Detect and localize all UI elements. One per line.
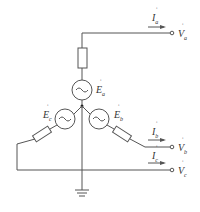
resistor-b xyxy=(113,126,132,142)
wire-c xyxy=(17,139,170,170)
ground-icon xyxy=(75,190,89,196)
accent-Vb: ˙ xyxy=(181,138,185,145)
label-Vc: Vc xyxy=(178,166,187,180)
terminal-b xyxy=(170,145,174,149)
label-Ec: Ec xyxy=(43,110,52,124)
terminal-c xyxy=(170,168,174,172)
label-Ic: Ic xyxy=(152,151,158,165)
accent-Ia: ˙ xyxy=(155,8,159,15)
label-Eb: Eb xyxy=(114,110,123,124)
accent-Ib: ˙ xyxy=(155,122,159,129)
circuit-diagram xyxy=(0,0,200,212)
accent-Ea: ˙ xyxy=(99,80,103,87)
label-Vb: Vb xyxy=(178,143,187,157)
accent-Vc: ˙ xyxy=(181,161,185,168)
label-Ea: Ea xyxy=(96,85,105,99)
label-Ib: Ib xyxy=(152,127,158,141)
accent-Va: ˙ xyxy=(181,24,185,31)
terminal-a xyxy=(170,31,174,35)
label-Ia: Ia xyxy=(152,13,158,27)
resistor-a xyxy=(78,48,87,68)
accent-Ic: ˙ xyxy=(155,146,159,153)
accent-Ec: ˙ xyxy=(46,105,50,112)
resistor-c xyxy=(33,126,52,142)
label-Va: Va xyxy=(178,29,187,43)
accent-Eb: ˙ xyxy=(117,105,121,112)
